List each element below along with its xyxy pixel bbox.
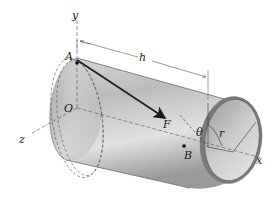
label-a: A (64, 50, 73, 63)
label-h: h (139, 51, 146, 64)
label-b: B (183, 149, 192, 162)
label-o: O (64, 102, 73, 115)
point-a-marker (75, 61, 79, 65)
point-b-marker (182, 144, 186, 148)
label-r: r (219, 127, 225, 140)
label-y: y (71, 9, 79, 22)
label-f: F (162, 118, 171, 131)
cylinder-force-diagram: y A h O z F B θ r x (0, 0, 275, 210)
label-x: x (256, 154, 263, 167)
label-z: z (18, 133, 25, 146)
label-theta: θ (196, 126, 203, 139)
